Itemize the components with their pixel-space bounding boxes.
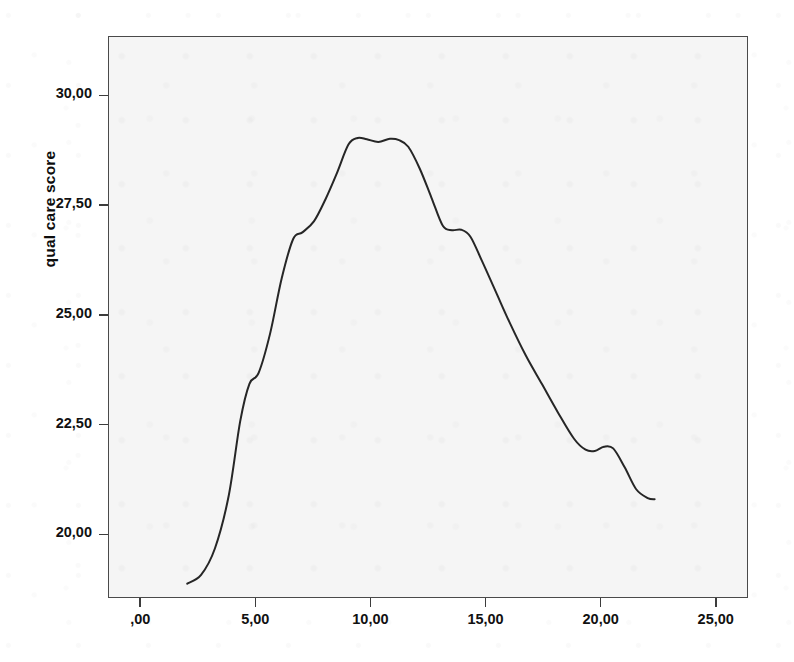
y-axis-tick-label: 22,50 xyxy=(30,415,92,431)
chart-figure: the secondin careremove marka degree of … xyxy=(0,0,794,662)
x-axis-tick-label: 15,00 xyxy=(446,611,526,627)
x-axis-tick-label: 5,00 xyxy=(215,611,295,627)
y-axis-tick-label: 30,00 xyxy=(30,85,92,101)
qual-care-score-line xyxy=(187,138,654,584)
y-axis-tick-label: 20,00 xyxy=(30,524,92,540)
x-axis-tick-mark xyxy=(715,598,717,607)
x-axis-tick-mark xyxy=(255,598,257,607)
x-axis-tick-label: 25,00 xyxy=(676,611,756,627)
y-axis-tick-mark xyxy=(99,204,108,206)
x-axis-tick-label: 10,00 xyxy=(330,611,410,627)
line-series-curve xyxy=(109,37,748,598)
y-axis-tick-mark xyxy=(99,314,108,316)
x-axis-tick-mark xyxy=(370,598,372,607)
y-axis-tick-mark xyxy=(99,95,108,97)
x-axis-tick-label: 20,00 xyxy=(561,611,641,627)
x-axis-tick-mark xyxy=(139,598,141,607)
plot-area xyxy=(108,36,748,598)
x-axis-tick-mark xyxy=(485,598,487,607)
y-axis-tick-label: 27,50 xyxy=(30,195,92,211)
x-axis-tick-label: ,00 xyxy=(100,611,180,627)
y-axis-tick-mark xyxy=(99,534,108,536)
x-axis-tick-mark xyxy=(600,598,602,607)
y-axis-tick-mark xyxy=(99,424,108,426)
y-axis-tick-label: 25,00 xyxy=(30,305,92,321)
